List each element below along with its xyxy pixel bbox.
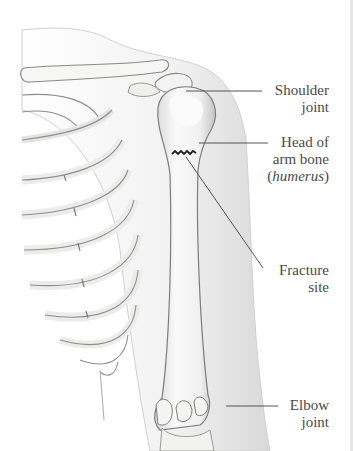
label-italic-text: humerus	[272, 168, 324, 184]
skeleton-illustration	[0, 0, 353, 451]
label-text: Elbow	[290, 397, 329, 414]
label-text: Fracture	[279, 262, 329, 279]
label-text: joint	[275, 99, 329, 116]
label-shoulder-joint: Shoulder joint	[275, 82, 329, 116]
label-text: arm bone	[267, 151, 329, 168]
label-text: (humerus)	[267, 168, 329, 185]
label-text: Shoulder	[275, 82, 329, 99]
label-text: joint	[290, 414, 329, 431]
label-elbow-joint: Elbow joint	[290, 397, 329, 431]
label-text: Head of	[267, 134, 329, 151]
label-text: site	[279, 279, 329, 296]
label-fracture-site: Fracture site	[279, 262, 329, 296]
label-head-of-arm-bone: Head of arm bone (humerus)	[267, 134, 329, 185]
